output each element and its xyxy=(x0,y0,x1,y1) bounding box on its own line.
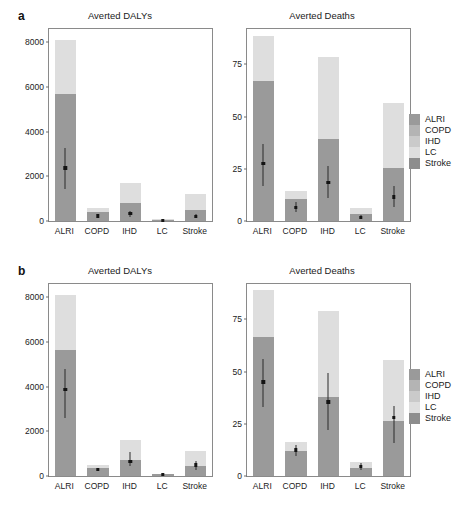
legend-item[interactable]: IHD xyxy=(409,391,451,402)
y-axis-tick-mark xyxy=(46,431,49,432)
x-axis-labels: ALRICOPDIHDLCStroke xyxy=(0,220,222,238)
x-axis-tick-label: COPD xyxy=(85,481,110,491)
legend-item[interactable]: Stroke xyxy=(409,413,451,424)
legend-swatch-icon xyxy=(409,158,420,169)
point-estimate-marker xyxy=(262,380,265,383)
x-axis-labels: ALRICOPDIHDLCStroke xyxy=(222,475,412,493)
x-axis-tick-label: ALRI xyxy=(55,226,74,236)
bar-group xyxy=(350,29,372,221)
x-axis-tick-label: Stroke xyxy=(182,481,207,491)
bar-segment-upper xyxy=(383,103,405,168)
plot-area: 0255075 xyxy=(246,283,411,477)
bar-group xyxy=(87,284,109,476)
bar-group xyxy=(350,284,372,476)
legend-item[interactable]: ALRI xyxy=(409,369,451,380)
legend-item[interactable]: LC xyxy=(409,147,451,158)
x-axis-tick-label: Stroke xyxy=(380,226,405,236)
point-estimate-marker xyxy=(64,166,67,169)
legend-swatch-icon xyxy=(409,380,420,391)
legend-item[interactable]: COPD xyxy=(409,125,451,136)
chart-title: Averted Deaths xyxy=(232,265,412,276)
chart-title: Averted Deaths xyxy=(232,10,412,21)
legend-item-label: Stroke xyxy=(425,158,451,169)
y-axis-tick-mark xyxy=(244,64,247,65)
legend-item-label: IHD xyxy=(425,136,441,147)
x-axis-tick-label: LC xyxy=(157,226,168,236)
legend-item-label: LC xyxy=(425,402,437,413)
x-axis-tick-label: IHD xyxy=(122,226,137,236)
legend-item-label: Stroke xyxy=(425,413,451,424)
panel-row-b: b Averted DALYs 02000400060008000 ALRICO… xyxy=(0,255,467,503)
x-axis-labels: ALRICOPDIHDLCStroke xyxy=(0,475,222,493)
chart-title: Averted DALYs xyxy=(30,10,210,21)
x-axis-tick-label: Stroke xyxy=(182,226,207,236)
legend-item-label: LC xyxy=(425,147,437,158)
legend-swatch-icon xyxy=(409,147,420,158)
bar-group xyxy=(120,29,142,221)
legend-item[interactable]: IHD xyxy=(409,136,451,147)
x-axis-tick-label: Stroke xyxy=(380,481,405,491)
point-estimate-marker xyxy=(96,468,99,471)
point-estimate-marker xyxy=(129,460,132,463)
bar-group xyxy=(55,29,77,221)
point-estimate-marker xyxy=(392,416,395,419)
bar-group xyxy=(253,284,275,476)
bar-group xyxy=(152,284,174,476)
point-estimate-marker xyxy=(294,448,297,451)
bar-group xyxy=(120,284,142,476)
x-axis-tick-label: ALRI xyxy=(253,481,272,491)
y-axis-tick-mark xyxy=(46,87,49,88)
plot-area: 02000400060008000 xyxy=(48,28,213,222)
chart-panel-a-deaths: Averted Deaths 0255075 ALRICOPDIHDLCStro… xyxy=(222,0,412,248)
x-axis-tick-label: LC xyxy=(355,481,366,491)
point-estimate-marker xyxy=(392,195,395,198)
figure-root: a Averted DALYs 02000400060008000 ALRICO… xyxy=(0,0,467,507)
bar-group xyxy=(383,29,405,221)
y-axis-tick-label: 8000 xyxy=(25,37,49,47)
chart-title: Averted DALYs xyxy=(30,265,210,276)
y-axis-tick-label: 4000 xyxy=(25,382,49,392)
bar-group xyxy=(318,284,340,476)
error-bar xyxy=(65,369,66,419)
legend-swatch-icon xyxy=(409,114,420,125)
chart-panel-b-deaths: Averted Deaths 0255075 ALRICOPDIHDLCStro… xyxy=(222,255,412,503)
legend-item[interactable]: LC xyxy=(409,402,451,413)
error-bar xyxy=(393,406,394,443)
bar-group xyxy=(383,284,405,476)
bar-group xyxy=(55,284,77,476)
chart-panel-a-dalys: Averted DALYs 02000400060008000 ALRICOPD… xyxy=(0,0,222,248)
bar-segment-upper xyxy=(253,290,275,337)
plot-area: 02000400060008000 xyxy=(48,283,213,477)
y-axis-tick-label: 75 xyxy=(233,59,247,69)
point-estimate-marker xyxy=(96,214,99,217)
bar-group xyxy=(87,29,109,221)
x-axis-tick-label: LC xyxy=(355,226,366,236)
y-axis-tick-label: 50 xyxy=(233,367,247,377)
bar-group xyxy=(253,29,275,221)
legend-item-label: COPD xyxy=(425,125,451,136)
bar-group xyxy=(185,29,207,221)
x-axis-tick-label: IHD xyxy=(122,481,137,491)
y-axis-tick-label: 8000 xyxy=(25,292,49,302)
legend-item[interactable]: Stroke xyxy=(409,158,451,169)
plot-area: 0255075 xyxy=(246,28,411,222)
point-estimate-marker xyxy=(327,400,330,403)
bar-group xyxy=(152,29,174,221)
bar-group xyxy=(318,29,340,221)
x-axis-tick-label: COPD xyxy=(283,226,308,236)
bar-segment-upper xyxy=(285,191,307,199)
bar-segment-upper xyxy=(55,295,77,350)
x-axis-tick-label: ALRI xyxy=(253,226,272,236)
y-axis-tick-mark xyxy=(46,42,49,43)
point-estimate-marker xyxy=(194,463,197,466)
legend-item[interactable]: ALRI xyxy=(409,114,451,125)
x-axis-tick-label: IHD xyxy=(320,481,335,491)
point-estimate-marker xyxy=(359,465,362,468)
point-estimate-marker xyxy=(359,216,362,219)
legend-item[interactable]: COPD xyxy=(409,380,451,391)
bar-group xyxy=(185,284,207,476)
legend-swatch-icon xyxy=(409,413,420,424)
point-estimate-marker xyxy=(294,206,297,209)
y-axis-tick-label: 4000 xyxy=(25,127,49,137)
legend-item-label: COPD xyxy=(425,380,451,391)
